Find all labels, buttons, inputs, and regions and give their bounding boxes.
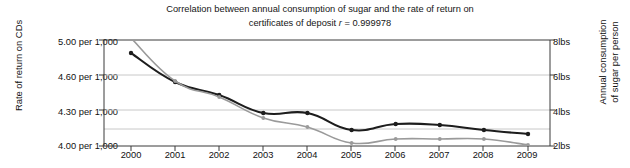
data-point-marker: [129, 51, 133, 55]
data-point-marker: [482, 128, 486, 132]
right-axis-ticks: [550, 40, 555, 146]
data-point-marker: [306, 125, 310, 129]
data-point-marker: [394, 122, 398, 126]
chart-container: Correlation between annual consumption o…: [0, 0, 630, 168]
x-axis-ticks: [131, 146, 528, 151]
data-point-marker: [261, 116, 265, 120]
data-point-marker: [129, 36, 133, 40]
data-point-marker: [394, 137, 398, 141]
data-point-marker: [482, 137, 486, 141]
data-point-marker: [217, 95, 221, 99]
data-point-marker: [261, 111, 265, 115]
data-point-marker: [438, 123, 442, 127]
data-series-layer: [129, 36, 530, 147]
data-point-marker: [350, 141, 354, 145]
data-point-marker: [438, 137, 442, 141]
data-point-marker: [526, 132, 530, 136]
data-point-marker: [349, 128, 353, 132]
data-point-marker: [173, 79, 177, 83]
series-line: [131, 53, 528, 134]
data-point-marker: [305, 111, 309, 115]
plot-area: [0, 0, 630, 168]
left-axis-ticks: [99, 40, 104, 146]
